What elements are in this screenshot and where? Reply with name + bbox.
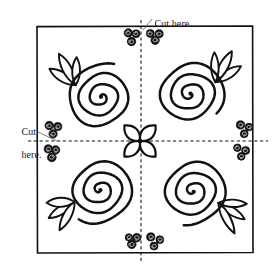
cut-here-label-left-line1: Cut	[21, 126, 36, 137]
cut-here-label-left: Cut here.	[11, 114, 42, 172]
cut-here-label-left-line2: here.	[21, 149, 41, 160]
cut-here-label-top: Cut here.	[144, 6, 192, 41]
diagram-page: Cut here. Cut here.	[0, 0, 273, 269]
cut-here-label-top-text: Cut here.	[154, 18, 192, 29]
